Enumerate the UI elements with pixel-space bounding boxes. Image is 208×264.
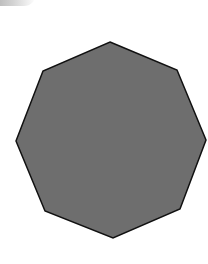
octagon-shape <box>16 42 206 238</box>
octagon-figure <box>0 0 208 264</box>
